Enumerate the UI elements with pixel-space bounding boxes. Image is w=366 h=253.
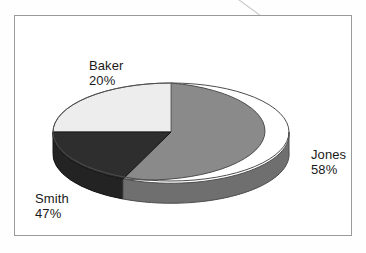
pie-label-baker-percent: 20%: [89, 73, 123, 88]
pie-label-smith: Smith 47%: [35, 191, 69, 221]
pie-label-baker-name: Baker: [89, 58, 123, 73]
pie-label-smith-name: Smith: [35, 191, 69, 206]
screenshot-canvas: Baker 20% Jones 58% Smith 47%: [0, 0, 366, 253]
pie-slice-baker: [53, 83, 171, 132]
pie-label-jones-name: Jones: [311, 147, 346, 162]
chart-frame: Baker 20% Jones 58% Smith 47%: [14, 15, 352, 236]
pie-label-jones-percent: 58%: [311, 162, 346, 177]
pie-label-baker: Baker 20%: [89, 58, 123, 88]
pie-label-smith-percent: 47%: [35, 206, 69, 221]
pie-label-jones: Jones 58%: [311, 147, 346, 177]
